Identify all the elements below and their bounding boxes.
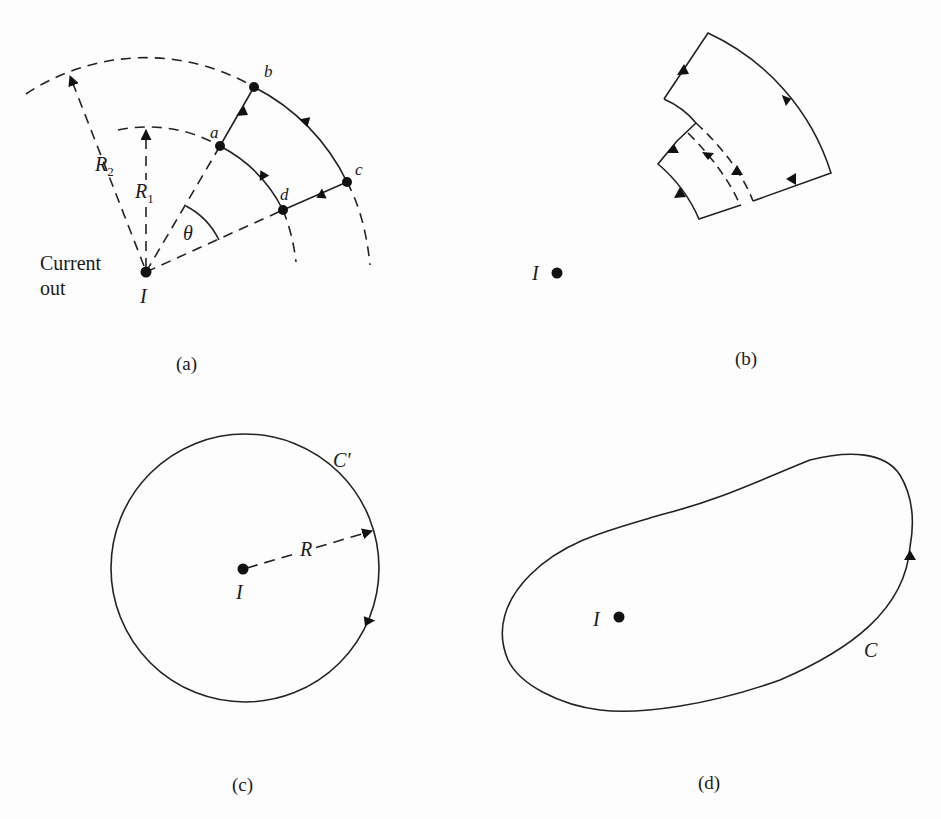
panel-b-arrowheads — [552, 64, 797, 279]
point-b-label: b — [264, 62, 273, 82]
r1-label: R1 — [134, 180, 155, 207]
point-c — [342, 177, 352, 187]
segment-ab — [220, 87, 254, 146]
caption-c: (c) — [232, 774, 253, 796]
outer-dashed-arc — [26, 58, 254, 94]
arc-bc — [254, 87, 347, 182]
panel-b-diagram — [658, 33, 831, 219]
current-label-line2: out — [40, 277, 66, 300]
current-I-label-b: I — [532, 262, 539, 285]
dashed-inner — [688, 133, 740, 205]
dashed-outer — [696, 123, 753, 201]
point-b — [249, 82, 259, 92]
point-I — [141, 267, 152, 278]
point-d — [278, 205, 288, 215]
radial-line-ia — [146, 146, 220, 272]
current-I-label: I — [140, 285, 147, 308]
closed-curve-C — [502, 454, 912, 711]
current-I-label-d: I — [593, 608, 600, 631]
caption-b: (b) — [735, 348, 757, 370]
r2-label: R2 — [95, 153, 114, 180]
circle-direction-arrow — [360, 615, 375, 630]
figure-canvas — [0, 0, 941, 819]
inner-dashed-arc-tail — [283, 210, 296, 262]
point-a-label: a — [210, 123, 219, 143]
inner-dashed-arc — [118, 127, 220, 146]
point-I-c — [238, 564, 249, 575]
curve-C-prime-label: C′ — [333, 449, 351, 472]
radial-line-id — [146, 210, 283, 272]
point-I-b — [552, 268, 563, 279]
arc-da — [220, 146, 283, 210]
caption-d: (d) — [698, 772, 720, 794]
point-c-label: c — [355, 160, 363, 180]
loop-b-notch — [664, 99, 696, 123]
segment-cd — [283, 182, 347, 210]
curve-direction-arrow — [904, 550, 916, 560]
outer-dashed-arc-tail — [347, 182, 370, 265]
radius-R-label: R — [298, 538, 314, 561]
panel-d-diagram — [502, 454, 912, 711]
loop-b-outer — [664, 33, 831, 201]
theta-label: θ — [183, 222, 193, 245]
loop-b-lower — [658, 123, 741, 219]
current-label-line1: Current — [40, 252, 101, 275]
point-I-d — [614, 612, 625, 623]
panel-a-diagram — [26, 58, 370, 272]
current-I-label-c: I — [236, 581, 243, 604]
point-d-label: d — [280, 185, 289, 205]
curve-C-label: C — [864, 639, 877, 662]
caption-a: (a) — [176, 353, 197, 375]
